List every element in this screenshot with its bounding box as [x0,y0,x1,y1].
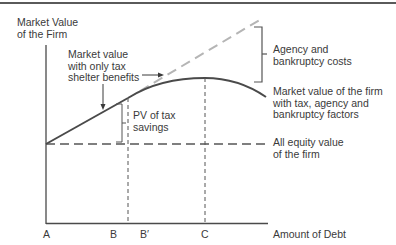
x-tick-a: A [43,228,50,240]
pv-tax-savings-annotation: PV of tax savings [133,110,176,133]
pv-tax-savings-line1: PV of tax [133,110,176,122]
x-tick-c: C [201,228,209,240]
market-value-full-line1: Market value of the firm [273,86,383,98]
agency-costs-line1: Agency and [273,44,352,56]
all-equity-line2: of the firm [273,149,344,161]
y-axis-label-line1: Market Value [17,17,78,29]
tax-shelter-annotation: Market value with only tax shelter benef… [68,49,139,84]
pv-tax-savings-bracket [116,104,122,142]
y-axis-label-line2: of the Firm [17,29,78,41]
tax-shelter-line-solid [46,98,128,144]
x-tick-b: B [110,228,117,240]
tax-shelter-line-dashed [140,18,263,91]
market-value-full-annotation: Market value of the firm with tax, agenc… [273,86,383,121]
x-tick-b-prime: B′ [140,228,149,240]
all-equity-line1: All equity value [273,137,344,149]
agency-costs-bracket [254,27,262,82]
agency-costs-line2: bankruptcy costs [273,56,352,68]
all-equity-annotation: All equity value of the firm [273,137,344,160]
arrow-down-head-icon [101,104,106,110]
tax-shelter-line3: shelter benefits [68,72,139,84]
pv-tax-savings-line2: savings [133,122,176,134]
y-axis-label: Market Value of the Firm [17,17,78,40]
tax-shelter-line1: Market value [68,49,139,61]
market-value-full-line3: bankruptcy factors [273,109,383,121]
arrow-right-head-icon [158,73,164,78]
agency-costs-annotation: Agency and bankruptcy costs [273,44,352,67]
x-axis-label: Amount of Debt [273,228,346,240]
market-value-curve [128,78,266,98]
